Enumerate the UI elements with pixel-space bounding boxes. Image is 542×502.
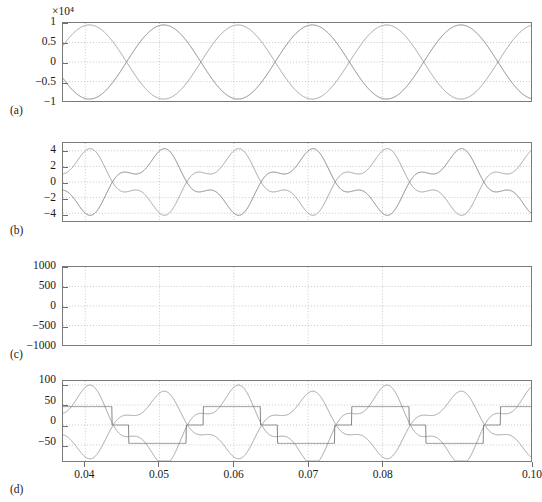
x-tick-mark [84, 462, 85, 467]
y-tick-mark [63, 83, 68, 84]
y-axis-ticks-b: 4 2 0 −2 −4 [0, 142, 56, 222]
y-tick-mark [63, 43, 68, 44]
plot-area-b [62, 142, 532, 222]
y-tick-mark [63, 199, 68, 200]
y-tick-label: 50 [45, 395, 57, 407]
y-tick-label: 4 [50, 144, 56, 156]
y-tick-label: −50 [38, 436, 56, 448]
y-tick-mark [63, 327, 68, 328]
subplot-d: 100 50 0 −50 0.040.050.060.070.080.10 (d… [0, 366, 541, 502]
y-tick-label: −1000 [27, 340, 57, 352]
x-tick-label: 0.10 [522, 469, 542, 481]
y-tick-mark [63, 151, 68, 152]
y-tick-mark [63, 167, 68, 168]
y-tick-mark [63, 63, 68, 64]
subplot-b: 4 2 0 −2 −4 (b) [0, 122, 541, 244]
y-axis-ticks-c: 1000 500 0 −500 −1000 [0, 266, 56, 346]
y-tick-label: −500 [32, 320, 56, 332]
x-tick-label: 0.06 [224, 469, 244, 481]
y-tick-label: −4 [44, 208, 56, 220]
x-tick-label: 0.07 [298, 469, 318, 481]
y-tick-mark [63, 307, 68, 308]
plot-svg-a [63, 23, 531, 101]
y-tick-label: 0 [50, 176, 56, 188]
x-tick-label: 0.08 [373, 469, 393, 481]
y-tick-label: 0.5 [42, 36, 56, 48]
plot-svg-b [63, 143, 531, 221]
y-tick-label: 1000 [33, 260, 56, 272]
y-tick-mark [63, 267, 68, 268]
y-tick-label: 0 [50, 300, 56, 312]
subplot-label-c: (c) [10, 349, 23, 361]
plot-area-c [62, 266, 532, 346]
plot-svg-d [63, 381, 531, 461]
y-tick-label: 1 [50, 16, 56, 28]
x-tick-mark [158, 462, 159, 467]
plot-area-d [62, 380, 532, 462]
y-tick-mark [63, 23, 68, 24]
y-tick-mark [63, 183, 68, 184]
y-tick-label: −2 [44, 192, 56, 204]
x-axis-d: 0.040.050.060.070.080.10 [62, 462, 532, 488]
plot-area-a [62, 22, 532, 102]
x-tick-mark [532, 462, 533, 467]
y-tick-mark [63, 385, 68, 386]
x-tick-label: 0.05 [149, 469, 169, 481]
subplot-c: 1000 500 0 −500 −1000 (c) [0, 244, 541, 366]
x-tick-mark [233, 462, 234, 467]
y-tick-mark [63, 215, 68, 216]
x-tick-label: 0.04 [74, 469, 94, 481]
x-tick-mark [382, 462, 383, 467]
y-tick-mark [63, 405, 68, 406]
y-tick-label: −1 [44, 96, 56, 108]
y-axis-ticks-d: 100 50 0 −50 [0, 380, 56, 462]
y-tick-mark [63, 446, 68, 447]
y-axis-ticks-a: 1 0.5 0 −0.5 −1 [0, 22, 56, 102]
y-tick-label: 0 [50, 415, 56, 427]
subplot-label-a: (a) [10, 105, 23, 117]
x-tick-mark [308, 462, 309, 467]
subplot-a: ×10⁴ 1 0.5 0 −0.5 −1 (a) [0, 0, 541, 122]
y-tick-label: −0.5 [35, 76, 56, 88]
y-tick-label: 100 [39, 374, 56, 386]
y-tick-mark [63, 287, 68, 288]
subplot-label-b: (b) [10, 225, 23, 237]
y-tick-label: 500 [39, 280, 56, 292]
y-tick-label: 2 [50, 160, 56, 172]
y-tick-mark [63, 426, 68, 427]
plot-svg-c [63, 267, 531, 345]
y-tick-label: 0 [50, 56, 56, 68]
subplot-label-d: (d) [10, 484, 23, 496]
